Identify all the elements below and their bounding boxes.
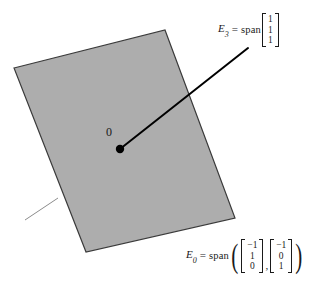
e3-span-operator: span bbox=[241, 25, 261, 36]
vector-entry: 1 bbox=[268, 35, 273, 46]
e0-symbol-letter: E bbox=[186, 248, 193, 260]
vector-entry: 1 bbox=[268, 25, 273, 36]
eigenspace-plane-shape bbox=[14, 30, 235, 252]
e0-symbol-subscript: 0 bbox=[193, 256, 197, 265]
e0-vector-1: −1 1 0 bbox=[241, 239, 263, 273]
e3-symbol-letter: E bbox=[218, 22, 225, 34]
bracket-right-icon bbox=[259, 239, 263, 273]
e0-symbol: E0 bbox=[186, 249, 197, 263]
e3-symbol-subscript: 3 bbox=[225, 30, 229, 39]
e0-eigenspace-label: E0 = span ( −1 1 0 , −1 0 1 ) bbox=[186, 239, 305, 273]
e0-vector-pair: ( −1 1 0 , −1 0 1 ) bbox=[229, 239, 305, 273]
vector-entry: −1 bbox=[247, 240, 257, 251]
e0-vector-2-entries: −1 0 1 bbox=[274, 239, 288, 273]
plane-edge-tick-line bbox=[25, 198, 58, 220]
e0-vector-2: −1 0 1 bbox=[270, 239, 292, 273]
e3-symbol: E3 bbox=[218, 23, 229, 37]
vector-entry: 0 bbox=[279, 251, 284, 262]
vector-entry: 1 bbox=[268, 14, 273, 25]
origin-dot bbox=[116, 145, 124, 153]
origin-label: 0 bbox=[106, 126, 112, 138]
e0-equals-sign: = bbox=[200, 250, 206, 261]
vector-entry: 1 bbox=[279, 261, 284, 272]
e3-vector-1-entries: 1 1 1 bbox=[266, 13, 275, 47]
e3-vector-1: 1 1 1 bbox=[262, 13, 279, 47]
vector-entry: −1 bbox=[276, 240, 286, 251]
e3-eigenspace-label: E3 = span 1 1 1 bbox=[218, 13, 280, 47]
vector-separator: , bbox=[265, 260, 268, 271]
e0-vector-1-entries: −1 1 0 bbox=[245, 239, 259, 273]
vector-entry: 0 bbox=[250, 261, 255, 272]
e3-equals-sign: = bbox=[232, 24, 238, 35]
open-paren-icon: ( bbox=[231, 244, 238, 268]
vector-entry: 1 bbox=[250, 251, 255, 262]
close-paren-icon: ) bbox=[295, 244, 302, 268]
e0-span-operator: span bbox=[209, 251, 229, 262]
bracket-right-icon bbox=[275, 13, 279, 47]
bracket-right-icon bbox=[288, 239, 292, 273]
